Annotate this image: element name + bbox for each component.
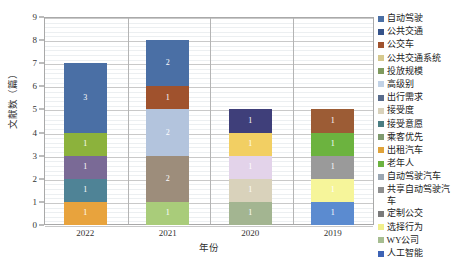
x-axis-tick-label: 2020 bbox=[241, 228, 259, 238]
bar-segment[interactable]: 1 bbox=[229, 109, 272, 132]
y-axis-title: 文献数（篇） bbox=[5, 54, 19, 144]
bar-segment[interactable]: 1 bbox=[64, 202, 107, 225]
legend-swatch-icon bbox=[378, 16, 384, 22]
y-axis-tick-label: 9 bbox=[33, 12, 38, 22]
legend-item[interactable]: 公交车 bbox=[378, 38, 467, 51]
legend-item[interactable]: 接受度 bbox=[378, 104, 467, 117]
bar-segment-label: 1 bbox=[83, 163, 87, 171]
bar-segment[interactable]: 1 bbox=[311, 156, 354, 179]
bar-segment[interactable]: 1 bbox=[229, 202, 272, 225]
bar-stack[interactable]: 11111 bbox=[311, 109, 354, 225]
legend-item-label: 选择行为 bbox=[387, 221, 423, 234]
legend-item[interactable]: 乘客优先 bbox=[378, 131, 467, 144]
bar-segment[interactable]: 2 bbox=[146, 40, 189, 86]
legend-item[interactable]: 投放规模 bbox=[378, 65, 467, 78]
bar-segment-label: 1 bbox=[248, 186, 252, 194]
legend-item[interactable]: WY公司 bbox=[378, 234, 467, 247]
bar-segment[interactable]: 3 bbox=[64, 63, 107, 132]
bar-segment-label: 1 bbox=[83, 186, 87, 194]
y-axis-tick-label: 4 bbox=[33, 128, 38, 138]
legend-item[interactable]: 共享自动驾驶汽车 bbox=[378, 183, 467, 207]
bar-segment-label: 1 bbox=[248, 209, 252, 217]
legend-swatch-icon bbox=[378, 121, 384, 127]
bar-segment-label: 2 bbox=[166, 59, 170, 67]
legend-swatch-icon bbox=[378, 81, 384, 87]
legend-item[interactable]: 自动驾驶汽车 bbox=[378, 170, 467, 183]
y-axis-tick-label: 8 bbox=[33, 35, 38, 45]
legend-swatch-icon bbox=[378, 211, 384, 217]
x-axis-tick-label: 2021 bbox=[159, 228, 177, 238]
bar-segment[interactable]: 1 bbox=[311, 133, 354, 156]
bar-segment[interactable]: 2 bbox=[146, 156, 189, 202]
legend-item[interactable]: 出租汽车 bbox=[378, 144, 467, 157]
legend-swatch-icon bbox=[378, 68, 384, 74]
bar-segment[interactable]: 1 bbox=[311, 109, 354, 132]
bar-segment-label: 1 bbox=[248, 117, 252, 125]
bar-stack[interactable]: 11111 bbox=[229, 109, 272, 225]
bar-segment-label: 1 bbox=[331, 186, 335, 194]
bar-segment[interactable]: 1 bbox=[229, 179, 272, 202]
legend-item[interactable]: 出行需求 bbox=[378, 91, 467, 104]
bar-segment[interactable]: 1 bbox=[229, 156, 272, 179]
legend-item[interactable]: 公共交通 bbox=[378, 25, 467, 38]
legend-item-label: 老年人 bbox=[387, 157, 414, 170]
legend-item[interactable]: 选择行为 bbox=[378, 221, 467, 234]
legend-swatch-icon bbox=[378, 237, 384, 243]
bar-segment-label: 1 bbox=[248, 163, 252, 171]
bar-segment-label: 1 bbox=[83, 140, 87, 148]
bar-segment-label: 2 bbox=[166, 129, 170, 137]
legend-item-label: 接受度 bbox=[387, 104, 414, 117]
legend-swatch-icon bbox=[378, 134, 384, 140]
y-axis-tick-label: 1 bbox=[33, 197, 38, 207]
legend-item-label: 出租汽车 bbox=[387, 144, 423, 157]
legend-item[interactable]: 人工智能 bbox=[378, 247, 467, 260]
legend-swatch-icon bbox=[378, 55, 384, 61]
legend-item[interactable]: 老年人 bbox=[378, 157, 467, 170]
bar-segment-label: 1 bbox=[331, 117, 335, 125]
legend-swatch-icon bbox=[378, 42, 384, 48]
legend-item[interactable]: 自动驾驶 bbox=[378, 12, 467, 25]
bar-segment[interactable]: 1 bbox=[146, 202, 189, 225]
bar-segment-label: 3 bbox=[83, 94, 87, 102]
bar-segment-label: 1 bbox=[166, 94, 170, 102]
legend-swatch-icon bbox=[378, 147, 384, 153]
bar-stack[interactable]: 31111 bbox=[64, 63, 107, 225]
bar-segment[interactable]: 1 bbox=[311, 179, 354, 202]
legend-item-label: 公交车 bbox=[387, 38, 414, 51]
x-axis-title: 年份 bbox=[44, 240, 374, 254]
legend-item[interactable]: 公共交通系统 bbox=[378, 52, 467, 65]
bar-segment-label: 1 bbox=[166, 209, 170, 217]
legend-item-label: 定制公交 bbox=[387, 207, 423, 220]
y-axis-tick-label: 5 bbox=[33, 104, 38, 114]
legend-item-label: WY公司 bbox=[387, 234, 420, 247]
legend-item-label: 自动驾驶 bbox=[387, 12, 423, 25]
legend-item[interactable]: 定制公交 bbox=[378, 207, 467, 220]
legend-item-label: 共享自动驾驶汽车 bbox=[387, 183, 455, 207]
legend-swatch-icon bbox=[378, 187, 384, 193]
legend-item-label: 高级别 bbox=[387, 78, 414, 91]
legend-item-label: 公共交通 bbox=[387, 25, 423, 38]
bar-segment-label: 2 bbox=[166, 175, 170, 183]
legend-swatch-icon bbox=[378, 161, 384, 167]
legend-item-label: 乘客优先 bbox=[387, 131, 423, 144]
bar-segment[interactable]: 1 bbox=[64, 133, 107, 156]
bar-segment-label: 1 bbox=[331, 209, 335, 217]
bar-segment-label: 1 bbox=[331, 140, 335, 148]
bar-stack[interactable]: 21221 bbox=[146, 40, 189, 225]
x-axis-tick-label: 2019 bbox=[324, 228, 342, 238]
y-axis-tick-label: 3 bbox=[33, 151, 38, 161]
legend-item-label: 出行需求 bbox=[387, 91, 423, 104]
legend-item[interactable]: 接受意愿 bbox=[378, 118, 467, 131]
bar-segment[interactable]: 1 bbox=[229, 133, 272, 156]
bar-segment[interactable]: 2 bbox=[146, 109, 189, 155]
bar-segment[interactable]: 1 bbox=[146, 86, 189, 109]
legend-swatch-icon bbox=[378, 224, 384, 230]
legend-swatch-icon bbox=[378, 174, 384, 180]
legend-item-label: 公共交通系统 bbox=[387, 52, 441, 65]
legend-item-label: 自动驾驶汽车 bbox=[387, 170, 441, 183]
legend-item[interactable]: 高级别 bbox=[378, 78, 467, 91]
bar-segment[interactable]: 1 bbox=[64, 179, 107, 202]
y-axis-tick-label: 0 bbox=[33, 220, 38, 230]
bar-segment[interactable]: 1 bbox=[64, 156, 107, 179]
bar-segment[interactable]: 1 bbox=[311, 202, 354, 225]
